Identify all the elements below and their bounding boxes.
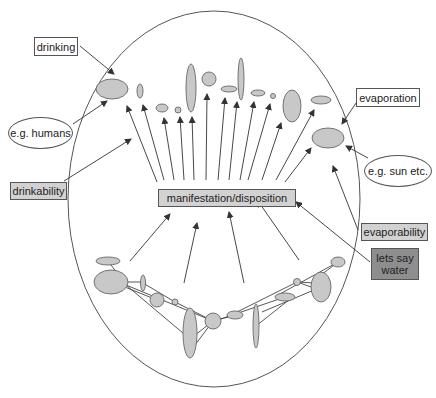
manifestation-blob [271, 94, 276, 99]
label-arrows [64, 46, 370, 262]
upward-arrow [184, 223, 197, 283]
fan-arrow [218, 98, 225, 180]
manifestation-blob [312, 128, 344, 148]
entity-blob [94, 270, 128, 294]
fan-arrow [164, 118, 174, 180]
entity-blob [141, 275, 146, 291]
upward-arrow [130, 214, 170, 261]
manifestation-blob [156, 104, 168, 112]
drinking-label: drinking [34, 37, 78, 56]
entity-blob [275, 293, 295, 301]
entity-blob [205, 313, 221, 329]
network-lines [108, 261, 338, 345]
sun-oval-label: e.g. sun etc. [364, 155, 432, 187]
bottom-arrows [130, 201, 299, 283]
manifestation-blob [186, 64, 196, 112]
fan-arrow [180, 117, 184, 180]
manifestation-blob [175, 107, 181, 113]
fan-arrow [240, 102, 254, 180]
fan-arrow [229, 102, 237, 180]
entity-blob [311, 272, 331, 302]
entity-blob [294, 279, 301, 286]
manifestation-blob [221, 86, 237, 92]
network-line [256, 299, 290, 326]
manifestation-blob [251, 90, 265, 96]
entity-blob [227, 311, 243, 319]
manifestation-blob [96, 79, 128, 99]
evaporability-label: evaporability [361, 223, 428, 241]
manifestation-blob [202, 72, 216, 86]
manifestation-blob [283, 90, 301, 122]
manifestation-blob [311, 96, 331, 104]
upward-arrow [229, 212, 244, 283]
fan-arrow [143, 105, 164, 180]
label-arrow [333, 166, 358, 230]
evaporation-label: evaporation [356, 88, 420, 107]
fan-arrow [206, 94, 207, 180]
entity-blob [96, 257, 120, 265]
label-arrow [296, 202, 370, 262]
upward-arrow [258, 201, 299, 260]
entity-blob [150, 293, 164, 307]
manifestation-blob [137, 84, 143, 98]
entity-blob [331, 257, 345, 267]
fan-arrow [192, 117, 194, 180]
fan-arrow [127, 106, 157, 182]
water-label-line2: water [382, 264, 409, 276]
manifestation-disposition-box: manifestation/disposition [158, 189, 296, 207]
water-label-line1: lets say [376, 252, 413, 264]
lets-say-water-label: lets say water [371, 248, 419, 280]
network-line [126, 285, 213, 321]
entity-blob [172, 299, 178, 305]
top-manifestation-blobs [96, 58, 344, 148]
label-arrow [73, 101, 107, 124]
humans-oval-label: e.g. humans [8, 117, 73, 149]
fan-arrow [285, 148, 311, 182]
entity-blob [183, 308, 197, 358]
label-arrow [346, 146, 368, 158]
fan-arrow [262, 123, 281, 180]
entity-blob [253, 304, 259, 348]
drinkability-label: drinkability [10, 182, 67, 200]
manifestation-blob [238, 58, 244, 100]
label-arrow [80, 46, 114, 74]
